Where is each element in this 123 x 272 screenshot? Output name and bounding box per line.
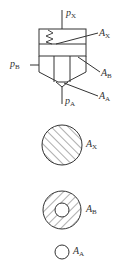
poppet-cone [56,82,68,87]
area-x-circle [42,125,82,165]
ab-leader [78,57,100,72]
label-ab-section: AB [86,204,97,216]
ax-leader [56,33,98,44]
label-ax-top: AX [99,28,110,40]
lower-body [39,56,86,82]
valve-body [30,10,100,104]
area-sections [42,125,82,259]
label-pa: pA [65,96,75,108]
area-a-circle [55,245,69,259]
label-px: pX [66,8,76,20]
label-ax-section: AX [86,139,97,151]
label-aa-section: AA [73,246,84,258]
label-pb: pB [10,59,20,71]
label-ab-top: AB [101,68,112,80]
valve-diagram [0,0,123,272]
label-aa-top: AA [99,91,110,103]
area-b-inner [55,203,69,217]
spring-icon [46,30,53,44]
